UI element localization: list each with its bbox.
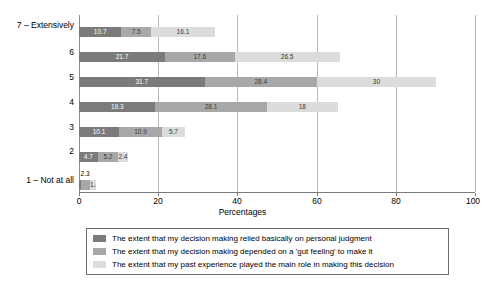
bar-segment: 7.5 [121,27,151,37]
bar-segment: 4.7 [79,152,98,162]
bar-value-label: 17.6 [165,52,235,62]
legend-label: The extent that my decision making depen… [112,245,373,258]
bar-segment: 1.4 [90,180,96,190]
x-axis-label-80: 80 [391,196,400,206]
bar-segment: 31.7 [79,77,205,87]
bar-segment: 18 [267,102,338,112]
bar-segment: 5.2 [98,152,119,162]
bar-segment: 30 [317,77,436,87]
y-axis-tick-7: 7 – Extensively [17,20,74,30]
legend-swatch-icon [93,248,106,255]
legend-item: The extent that my decision making relie… [93,232,448,245]
bar-value-label: 10.9 [119,127,162,137]
bar-value-label: 10.7 [79,27,121,37]
bar-chart: 7 – Extensively 6 5 4 3 2 1 – Not at all… [0,0,485,304]
legend-swatch-icon [93,261,106,268]
bar-value-label: 7.5 [121,27,151,37]
bar-segment: 10.9 [119,127,162,137]
x-axis-label-20: 20 [153,196,162,206]
bar-value-label: 4.7 [79,152,98,162]
legend-item: The extent that my past experience playe… [93,258,448,271]
x-axis-label-40: 40 [232,196,241,206]
y-axis-tick-2: 2 [69,146,74,156]
bar-value-label: 21.7 [79,52,165,62]
x-axis-label-0: 0 [77,196,82,206]
bar-value-label: 5.2 [98,152,119,162]
bar-segment: 28.1 [155,102,266,112]
y-axis-tick-5: 5 [69,72,74,82]
bar-segment: 10.7 [79,27,121,37]
bar-value-label: 19.3 [79,102,155,112]
bar-value-label: 10.1 [79,127,119,137]
bar-segment: 5.7 [162,127,185,137]
bar-segment: 26.5 [235,52,340,62]
x-axis-line [79,192,475,193]
x-axis-label-100: 100 [466,196,480,206]
bar-segment: 28.4 [205,77,317,87]
bar-value-label: 28.1 [155,102,266,112]
chart-legend: The extent that my decision making relie… [86,228,449,275]
bar-segment: 16.1 [151,27,215,37]
bar-value-label: 28.4 [205,77,317,87]
bar-value-label-outside: 2.3 [81,170,90,178]
legend-label: The extent that my decision making relie… [112,232,372,245]
x-axis-label-60: 60 [312,196,321,206]
y-axis-tick-3: 3 [69,122,74,132]
bar-value-label: 16.1 [151,27,215,37]
x-axis-title: Percentages [0,207,485,217]
bar-segment: 10.1 [79,127,119,137]
bar-segment: 2.4 [118,152,128,162]
plot-area: 10.77.516.121.717.626.531.728.43019.328.… [79,15,475,192]
legend-swatch-icon [93,235,106,242]
bar-segment: 17.6 [165,52,235,62]
gridline-100 [475,15,476,192]
bar-rows: 10.77.516.121.717.626.531.728.43019.328.… [79,15,475,192]
y-axis-labels: 7 – Extensively 6 5 4 3 2 1 – Not at all [0,15,74,192]
bar-value-label: 2.4 [118,152,128,162]
bar-segment: 19.3 [79,102,155,112]
bar-value-label: 30 [317,77,436,87]
legend-label: The extent that my past experience playe… [112,258,394,271]
bar-value-label: 5.7 [162,127,185,137]
bar-value-label: 1.4 [90,180,96,190]
legend-item: The extent that my decision making depen… [93,245,448,258]
y-axis-tick-4: 4 [69,97,74,107]
bar-value-label: 26.5 [235,52,340,62]
y-axis-tick-6: 6 [69,47,74,57]
y-axis-tick-1: 1 – Not at all [26,175,74,185]
bar-value-label: 31.7 [79,77,205,87]
bar-segment [81,180,90,190]
bar-segment: 21.7 [79,52,165,62]
bar-value-label: 18 [267,102,338,112]
